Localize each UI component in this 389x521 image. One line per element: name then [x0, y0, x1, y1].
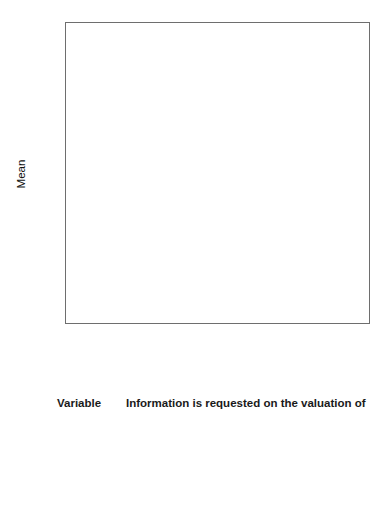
y-axis-tick-labels	[26, 0, 56, 385]
plot-area	[65, 22, 370, 324]
legend-header-row: Variable Information is requested on the…	[57, 396, 377, 414]
variable-legend-table: Variable Information is requested on the…	[57, 396, 377, 414]
bar-chart-figure: Mean	[0, 0, 389, 385]
legend-header-variable: Variable	[57, 396, 126, 414]
legend-header-description: Information is requested on the valuatio…	[126, 396, 377, 414]
bars-container	[66, 23, 369, 323]
